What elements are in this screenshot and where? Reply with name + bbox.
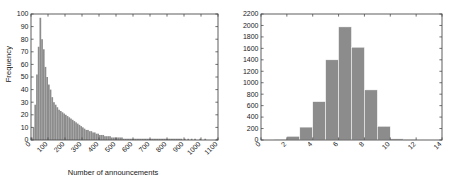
bar xyxy=(339,27,352,140)
bar xyxy=(72,120,74,140)
bar xyxy=(50,90,52,140)
x-tick-label: 12 xyxy=(406,140,417,151)
bar xyxy=(106,136,108,140)
bar xyxy=(96,134,98,140)
bar xyxy=(287,136,300,140)
bar xyxy=(46,77,48,140)
bar xyxy=(101,135,103,140)
bar xyxy=(63,114,65,140)
y-tick-label: 200 xyxy=(247,125,259,132)
panel-withdraws-histogram: Frequency 020040060080010001200140016001… xyxy=(226,0,453,187)
panel-announcements-histogram: Frequency 010203040506070809010001002003… xyxy=(0,0,226,187)
bar xyxy=(75,122,77,140)
announcements-plot-area: 0102030405060708090100010020030040050060… xyxy=(0,0,226,165)
y-tick-label: 400 xyxy=(247,113,259,120)
bar xyxy=(65,115,67,140)
bar xyxy=(87,130,89,140)
bar xyxy=(38,47,40,140)
bar xyxy=(55,105,57,140)
bar xyxy=(36,74,38,140)
bar xyxy=(104,136,106,140)
y-tick-label: 2200 xyxy=(243,10,259,17)
x-tick-label: 200 xyxy=(52,140,65,153)
bar xyxy=(62,112,64,140)
bar xyxy=(326,60,339,140)
bar xyxy=(74,121,76,140)
x-tick-label: 4 xyxy=(306,140,314,148)
x-tick-label: 14 xyxy=(432,140,443,151)
bar xyxy=(92,132,94,140)
bar xyxy=(70,119,72,140)
bar xyxy=(68,117,70,140)
bar xyxy=(352,47,365,140)
y-tick-label: 60 xyxy=(21,61,29,68)
x-tick-label: 300 xyxy=(69,140,82,153)
bar xyxy=(364,90,377,140)
bar xyxy=(91,131,93,140)
x-tick-label: 600 xyxy=(120,140,133,153)
x-tick-label: 6 xyxy=(332,140,340,148)
y-tick-label: 90 xyxy=(21,23,29,30)
y-tick-label: 1400 xyxy=(243,56,259,63)
y-tick-label: 600 xyxy=(247,102,259,109)
bar xyxy=(57,107,59,140)
x-axis-label-left: Number of announcements xyxy=(0,168,226,177)
bar xyxy=(51,97,53,140)
bar xyxy=(77,124,79,140)
bar xyxy=(84,129,86,140)
y-tick-label: 50 xyxy=(21,73,29,80)
bar xyxy=(67,116,69,140)
bar xyxy=(102,135,104,140)
bar xyxy=(53,102,55,140)
y-tick-label: 800 xyxy=(247,91,259,98)
y-tick-label: 30 xyxy=(21,99,29,106)
x-tick-label: 700 xyxy=(137,140,150,153)
bar xyxy=(313,102,326,140)
bar xyxy=(40,18,42,140)
y-tick-label: 1000 xyxy=(243,79,259,86)
bar xyxy=(58,110,60,140)
bar xyxy=(109,136,111,140)
x-tick-label: 400 xyxy=(86,140,99,153)
x-tick-label: 8 xyxy=(357,140,365,148)
x-tick-label: 900 xyxy=(171,140,184,153)
bar xyxy=(33,127,35,140)
y-tick-label: 20 xyxy=(21,111,29,118)
x-tick-label: 800 xyxy=(154,140,167,153)
y-tick-label: 80 xyxy=(21,36,29,43)
bar xyxy=(43,49,45,140)
y-tick-label: 1800 xyxy=(243,33,259,40)
bars-group xyxy=(274,27,416,140)
y-tick-label: 1200 xyxy=(243,68,259,75)
bar xyxy=(377,126,390,140)
x-tick-label: 2 xyxy=(280,140,288,148)
bar xyxy=(34,105,36,140)
bar xyxy=(48,85,50,140)
bar xyxy=(41,39,43,140)
bar xyxy=(300,127,313,140)
y-tick-label: 100 xyxy=(17,10,29,17)
bar xyxy=(60,111,62,140)
y-axis-label-left: Frequency xyxy=(4,46,13,82)
bar xyxy=(79,125,81,140)
x-tick-label: 100 xyxy=(35,140,48,153)
y-tick-label: 2000 xyxy=(243,22,259,29)
y-tick-label: 40 xyxy=(21,86,29,93)
y-tick-label: 10 xyxy=(21,124,29,131)
bar xyxy=(85,130,87,140)
figure-two-histograms: Frequency 010203040506070809010001002003… xyxy=(0,0,453,187)
bar xyxy=(94,132,96,140)
y-tick-label: 70 xyxy=(21,48,29,55)
bar xyxy=(45,67,47,140)
bars-group xyxy=(31,18,218,140)
x-tick-label: 500 xyxy=(103,140,116,153)
x-tick-label: 1100 xyxy=(203,140,219,156)
withdraws-plot-area: 0200400600800100012001400160018002000220… xyxy=(226,0,453,165)
bar xyxy=(89,131,91,140)
x-tick-label: 10 xyxy=(381,140,392,151)
bar xyxy=(108,136,110,140)
x-tick-label: 1000 xyxy=(186,140,202,156)
y-tick-label: 1600 xyxy=(243,45,259,52)
